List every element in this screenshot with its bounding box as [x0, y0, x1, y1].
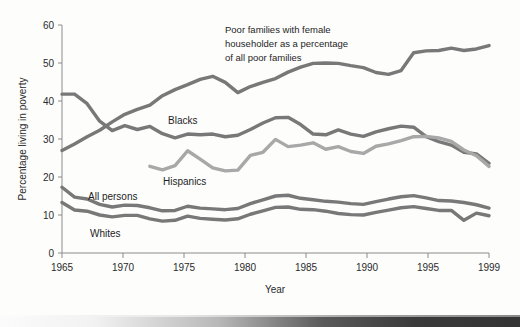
y-tick-label-30: 30	[43, 134, 55, 145]
x-tick-label-1980: 1980	[234, 262, 257, 273]
series-label-hispanics: Hispanics	[163, 176, 206, 187]
y-axis-title: Percentage living in poverty	[17, 78, 28, 201]
chart-figure: 0 10 20 30 40 50 60 1965 1970 1975 1980 …	[0, 0, 520, 327]
series-line-1	[62, 94, 489, 163]
y-tick-label-40: 40	[43, 96, 55, 107]
y-tick-label-60: 60	[43, 20, 55, 31]
x-tick-labels: 1965 1970 1975 1980 1985 1990 1995 1999	[51, 262, 501, 273]
series-label-all-persons: All persons	[88, 191, 137, 202]
poverty-line-chart: 0 10 20 30 40 50 60 1965 1970 1975 1980 …	[0, 0, 520, 327]
y-tick-labels: 0 10 20 30 40 50 60	[43, 20, 55, 259]
x-tick-label-1999: 1999	[478, 262, 501, 273]
x-tick-label-1975: 1975	[173, 262, 196, 273]
y-tick-label-0: 0	[48, 248, 54, 259]
y-tick-label-20: 20	[43, 172, 55, 183]
x-tick-label-1985: 1985	[295, 262, 318, 273]
x-tick-label-1970: 1970	[112, 262, 135, 273]
x-tick-label-1990: 1990	[356, 262, 379, 273]
female-householder-annotation: Poor families with female householder as…	[225, 24, 348, 63]
y-tick-label-50: 50	[43, 58, 55, 69]
x-axis-title: Year	[265, 284, 286, 295]
y-tick-label-10: 10	[43, 210, 55, 221]
series-label-blacks: Blacks	[168, 115, 197, 126]
annotation-line-3: of all poor families	[225, 52, 302, 63]
annotation-line-2: householder as a percentage	[225, 38, 348, 49]
x-tick-label-1965: 1965	[51, 262, 74, 273]
y-axis-ticks	[58, 25, 62, 253]
annotation-line-1: Poor families with female	[225, 24, 331, 35]
x-tick-label-1995: 1995	[417, 262, 440, 273]
series-label-whites: Whites	[90, 228, 121, 239]
scan-bottom-band	[0, 317, 520, 327]
x-axis-ticks	[62, 253, 489, 258]
